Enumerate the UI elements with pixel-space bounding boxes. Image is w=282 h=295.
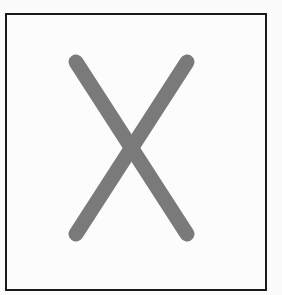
figure-canvas	[0, 0, 282, 295]
x-mark-icon	[0, 0, 282, 295]
